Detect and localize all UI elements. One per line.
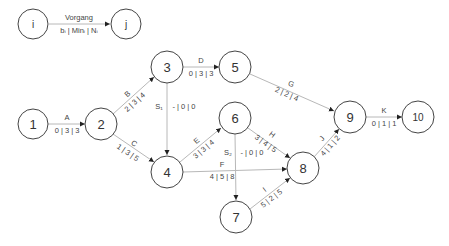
edge-C-name: C [129, 138, 139, 149]
edge-S1-values: - | 0 | 0 [172, 102, 195, 111]
edge-C-values: 1 | 3 | 5 [115, 142, 141, 163]
node-4-label: 4 [163, 165, 170, 180]
edge-I-name: I [261, 185, 268, 193]
node-7-label: 7 [232, 210, 239, 225]
edge-D-name: D [198, 56, 204, 65]
node-10-label: 10 [412, 112, 424, 123]
legend: i j Vorgang bᵢ | Minᵢ | Nᵢ [18, 9, 141, 39]
node-6-label: 6 [231, 111, 238, 126]
legend-node-j-label: j [124, 19, 127, 30]
edge-D-values: 0 | 3 | 3 [189, 69, 214, 78]
edge-J-name: J [317, 134, 326, 143]
edge-F-values: 4 | 5 | 8 [210, 172, 235, 181]
edge-K-name: K [381, 106, 386, 115]
edge-I-values: 5 | 2 | 5 [259, 187, 284, 209]
edge-G-name: G [287, 79, 296, 90]
edge-A-values: 0 | 3 | 3 [55, 126, 80, 135]
edge-S2-name: S₂ [224, 148, 232, 157]
node-5-label: 5 [231, 60, 238, 75]
network-diagram: i j Vorgang bᵢ | Minᵢ | Nᵢ A 0 | 3 | 3 B… [0, 0, 449, 246]
edge-A-name: A [64, 113, 69, 122]
edge-F-name: F [220, 160, 225, 169]
edge-F [183, 169, 287, 172]
node-2-label: 2 [97, 117, 104, 132]
edge-E-name: E [192, 136, 202, 146]
node-8-label: 8 [299, 161, 306, 176]
node-3-label: 3 [163, 60, 170, 75]
edge-K-values: 0 | 1 | 1 [372, 119, 397, 128]
legend-title: Vorgang [65, 13, 93, 22]
edge-S2-values: - | 0 | 0 [240, 148, 263, 157]
edge-S1-name: S₁ [155, 102, 163, 111]
edge-H-name: H [267, 129, 277, 139]
edge-G-values: 2 | 2 | 4 [274, 85, 300, 103]
legend-node-i-label: i [32, 19, 34, 30]
nodes: 1 2 3 4 5 6 7 8 9 10 [18, 51, 434, 233]
legend-formula: bᵢ | Minᵢ | Nᵢ [60, 26, 97, 35]
node-1-label: 1 [29, 117, 36, 132]
node-9-label: 9 [346, 110, 353, 125]
edge-S2-dummy [235, 134, 236, 200]
